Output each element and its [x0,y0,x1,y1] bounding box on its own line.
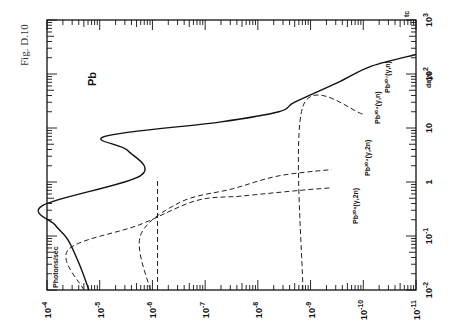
x-tick-label: 10-6 [146,302,158,318]
x-tick-label: 10-9 [305,302,317,318]
annotation-pb204-gamma-2n: Pb²⁰⁴(γ,2n) [364,140,372,176]
annotation-pb204-gamma-n: Pb²⁰⁴(γ,n) [374,91,382,124]
curve-pb206-2n [66,188,332,290]
tick-labels: 10-410-510-610-710-810-910-1010-1110-210… [41,13,434,320]
chart: Fig. D.10 10-410-510-610-710-810-910-101… [0,0,453,322]
y-axis-label-days: days [425,72,433,88]
x-axis-label: Photons/sec [52,246,59,288]
curve-total [38,54,416,290]
x-tick-label: 10-10 [357,300,369,320]
y-tick-label: 10-1 [422,228,434,244]
annotation-pb207-gamma-n: Pb²⁰⁷(γ,n) [384,61,392,93]
element-label: Pb [86,72,98,86]
y-tick-label: 103 [422,13,434,27]
x-tick-label: 10-8 [252,302,264,318]
y-tick-label: 1 [424,179,434,184]
plot-frame [47,20,416,290]
annotation-pb206-gamma-2n: Pb²⁰⁶(γ,2n) [352,188,360,224]
x-tick-label: 10-11 [410,300,422,320]
figure-label: Fig. D.10 [18,24,30,66]
axes [47,20,416,290]
x-tick-label: 10-4 [41,302,53,318]
ticks [47,20,416,290]
y-tick-label: 10 [424,123,434,133]
x-tick-label: 10-5 [94,302,106,318]
x-tick-label: 10-7 [199,302,211,318]
y-axis-label-tc: tc [403,11,410,17]
y-tick-label: 10-2 [422,282,434,298]
curves [38,54,416,290]
